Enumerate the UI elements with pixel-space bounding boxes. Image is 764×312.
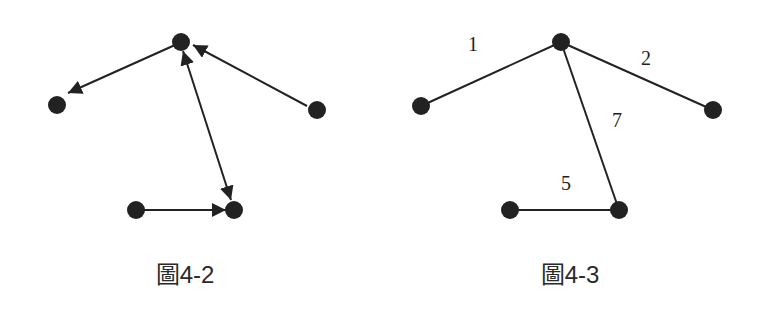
node-e: [225, 201, 243, 219]
edge-a-b: [421, 42, 561, 106]
node-d: [501, 201, 519, 219]
edge-a-to-e-bidirectional: [183, 51, 231, 200]
edge-weight-label: 2: [641, 47, 651, 69]
edge-c-to-a: [193, 45, 307, 106]
diagram-canvas: 圖4-2 1 2 7 5 圖4-3: [0, 0, 764, 312]
node-b: [48, 96, 66, 114]
edge-weight-label: 1: [468, 33, 478, 55]
edge-weight-label: 5: [561, 172, 571, 194]
figure-caption: 圖4-3: [541, 261, 600, 288]
edge-weight-label: 7: [612, 109, 622, 131]
node-d: [127, 201, 145, 219]
node-a: [172, 33, 190, 51]
edge-a-c: [561, 42, 713, 110]
node-a: [552, 33, 570, 51]
node-e: [610, 201, 628, 219]
node-c: [308, 101, 326, 119]
figure-4-3: 1 2 7 5 圖4-3: [412, 33, 722, 288]
figure-caption: 圖4-2: [156, 261, 215, 288]
node-b: [412, 97, 430, 115]
figure-4-2: 圖4-2: [48, 33, 326, 288]
node-c: [704, 101, 722, 119]
edge-a-to-b: [68, 45, 175, 93]
